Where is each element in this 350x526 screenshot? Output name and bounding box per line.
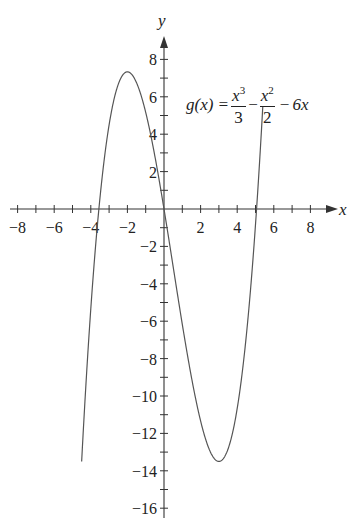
x-tick-label: −2 [119, 219, 136, 236]
x-axis-label: x [338, 200, 347, 219]
y-tick-label: −4 [140, 276, 157, 293]
function-label: g(x) = x3 3 − x2 2 − 6x [186, 85, 308, 126]
y-tick-label: −16 [132, 500, 157, 517]
x-tick-label: −6 [46, 219, 63, 236]
formula-term2: x2 2 [260, 85, 275, 126]
y-axis-label: y [156, 11, 166, 30]
formula-term1: x3 3 [231, 85, 246, 126]
formula-term3: 6x [292, 95, 308, 115]
x-tick-label: 2 [197, 219, 205, 236]
x-tick-label: 8 [306, 219, 314, 236]
y-tick-label: −8 [140, 351, 157, 368]
y-tick-label: −2 [140, 238, 157, 255]
x-tick-label: 6 [270, 219, 278, 236]
y-tick-label: 2 [149, 164, 157, 181]
y-tick-label: −14 [132, 463, 157, 480]
function-plot: −8−6−4−22468 8642−2−4−6−8−10−12−14−16 x … [0, 0, 350, 526]
formula-op2: − [280, 95, 290, 115]
y-axis-arrow-icon [160, 36, 168, 48]
function-curve [82, 72, 263, 462]
y-tick-label: −12 [132, 425, 157, 442]
formula-op1: − [248, 95, 258, 115]
x-axis-arrow-icon [326, 205, 338, 213]
formula-lhs: g(x) = [186, 95, 229, 115]
x-tick-label: −8 [9, 219, 26, 236]
x-tick-label: 4 [233, 219, 241, 236]
y-tick-label: −10 [132, 388, 157, 405]
y-tick-label: −6 [140, 313, 157, 330]
y-tick-label: 8 [149, 51, 157, 68]
y-tick-labels: 8642−2−4−6−8−10−12−14−16 [132, 51, 157, 517]
y-tick-label: 6 [149, 89, 157, 106]
